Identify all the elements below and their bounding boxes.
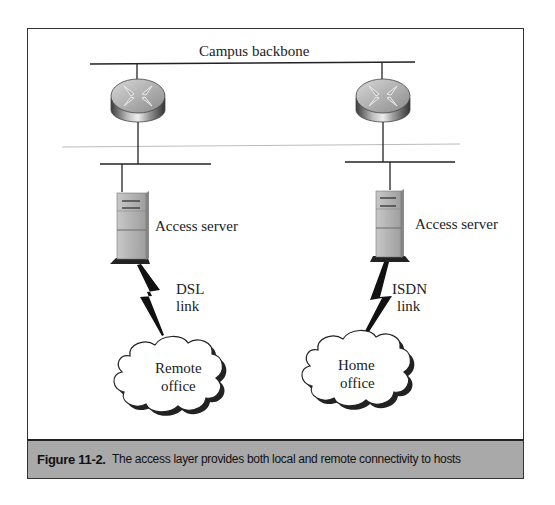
right-server-label: Access server xyxy=(415,216,498,233)
router-icon xyxy=(356,63,410,162)
right-cloud-label-2: office xyxy=(340,375,375,392)
backbone-line xyxy=(90,62,415,64)
right-cloud-label-1: Home xyxy=(338,357,375,374)
caption-text: The access layer provides both local and… xyxy=(112,452,461,466)
left-link-label-2: link xyxy=(176,298,199,315)
left-cloud-label-2: office xyxy=(161,378,196,395)
figure-number: Figure 11-2. xyxy=(37,452,106,467)
router-icon xyxy=(111,64,165,164)
server-icon xyxy=(110,164,150,264)
left-server-label: Access server xyxy=(155,218,238,235)
left-link-label-1: DSL xyxy=(176,281,204,298)
figure-caption: Figure 11-2. The access layer provides b… xyxy=(27,439,524,479)
server-icon xyxy=(370,162,410,262)
backbone-label: Campus backbone xyxy=(199,43,309,60)
right-link-label-1: ISDN xyxy=(392,281,427,298)
left-cloud-label-1: Remote xyxy=(155,360,202,377)
lightning-link-icon xyxy=(362,262,392,338)
network-diagram xyxy=(0,0,555,505)
right-link-label-2: link xyxy=(397,298,420,315)
layer-divider xyxy=(62,144,460,147)
lightning-link-icon xyxy=(137,264,164,336)
